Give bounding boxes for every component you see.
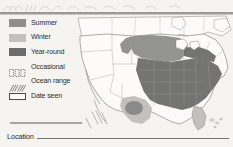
- winter-swatch-icon: [9, 34, 26, 42]
- legend-label-ocean-range: Ocean range: [31, 78, 70, 85]
- legend-label-summer: Summer: [31, 20, 57, 27]
- legend-label-year-round: Year-round: [31, 49, 64, 56]
- field-guide-range-map-page: Summer Winter Year-round Occasional: [0, 0, 233, 147]
- legend-label-date-seen: Date seen: [31, 93, 62, 100]
- legend-item-winter: Winter: [9, 31, 83, 46]
- legend-divider: [10, 122, 82, 124]
- hatched-swatch-icon: [9, 78, 26, 86]
- summer-swatch-icon: [9, 19, 26, 27]
- legend-item-summer: Summer: [9, 16, 83, 31]
- north-america-range-map: [76, 14, 233, 134]
- legend-label-occasional: Occasional: [31, 64, 65, 71]
- legend-item-year-round: Year-round: [9, 45, 83, 60]
- location-label: Location: [7, 133, 34, 140]
- location-field[interactable]: Location: [7, 133, 229, 140]
- legend-item-occasional: Occasional: [9, 60, 83, 75]
- map-legend: Summer Winter Year-round Occasional: [9, 16, 83, 104]
- year-round-swatch-icon: [9, 48, 26, 56]
- dotted-square-swatch-icon: [9, 63, 26, 71]
- handwriting-scribble: [0, 0, 233, 12]
- legend-label-winter: Winter: [31, 34, 51, 41]
- outlined-square-swatch-icon: [9, 93, 26, 100]
- location-write-in-line[interactable]: [37, 138, 229, 139]
